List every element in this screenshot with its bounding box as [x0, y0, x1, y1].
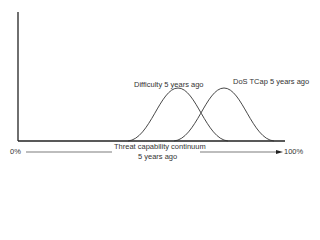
- difficulty-label: Difficulty 5 years ago: [134, 81, 203, 89]
- difficulty-curve: [128, 88, 228, 141]
- dos-tcap-curve: [174, 88, 274, 141]
- start-percent-label: 0%: [10, 148, 21, 156]
- arrow-right-icon: [276, 150, 283, 154]
- axis-title-line1: Threat capability continuum: [114, 143, 206, 151]
- axis-title-line2: 5 years ago: [138, 153, 177, 161]
- end-percent-label: 100%: [284, 148, 303, 156]
- dos-tcap-label: DoS TCap 5 years ago: [233, 78, 309, 86]
